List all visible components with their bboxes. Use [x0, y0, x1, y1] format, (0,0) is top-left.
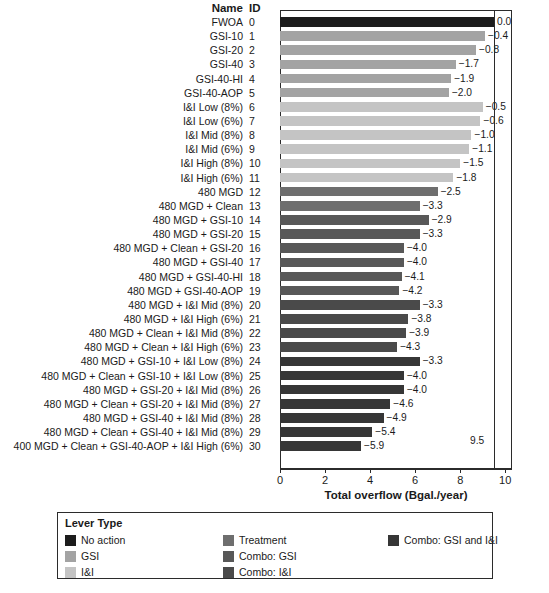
bar-cell: −4.9	[280, 411, 512, 425]
bar-cell: −1.5	[280, 156, 512, 170]
bar-cell: −4.0	[280, 255, 512, 269]
legend-swatch	[65, 567, 76, 578]
scenario-id: 2	[249, 43, 271, 57]
table-row: I&I High (8%)10−1.5	[0, 156, 549, 170]
table-row: GSI-202−0.8	[0, 43, 549, 57]
x-axis-label: Total overflow (Bgal./year)	[280, 489, 512, 501]
bar	[280, 31, 485, 41]
scenario-id: 28	[249, 411, 271, 425]
bar-value-label: −0.4	[488, 29, 508, 43]
bar-value-label: −4.0	[407, 241, 427, 255]
bar-cell: −2.0	[280, 86, 512, 100]
bar-value-label: −1.5	[463, 156, 483, 170]
bar	[280, 116, 480, 126]
x-tick	[370, 469, 371, 473]
table-row: GSI-40-HI4−1.9	[0, 72, 549, 86]
table-row: 480 MGD + GSI-40-HI18−4.1	[0, 270, 549, 284]
bar-value-label: −3.9	[409, 326, 429, 340]
x-tick-label: 4	[367, 474, 373, 486]
bar-value-label: −2.9	[432, 213, 452, 227]
table-row: GSI-101−0.4	[0, 29, 549, 43]
scenario-name: 480 MGD + Clean	[0, 199, 243, 213]
table-row: 480 MGD + Clean + GSI-2016−4.0	[0, 241, 549, 255]
table-row: 480 MGD + I&I High (6%)21−3.8	[0, 312, 549, 326]
bar-cell: −4.2	[280, 284, 512, 298]
table-row: 480 MGD + GSI-2015−3.3	[0, 227, 549, 241]
legend-label: Combo: GSI	[239, 549, 297, 563]
bar-cell: −4.0	[280, 369, 512, 383]
scenario-id: 25	[249, 369, 271, 383]
scenario-name: 480 MGD + Clean + GSI-20 + I&I Mid (8%)	[0, 397, 243, 411]
x-tick	[460, 469, 461, 473]
scenario-name: 480 MGD + GSI-40	[0, 255, 243, 269]
bar-value-label: −1.7	[459, 57, 479, 71]
scenario-name: GSI-40-HI	[0, 72, 243, 86]
scenario-id: 13	[249, 199, 271, 213]
table-row: I&I Mid (8%)8−1.0	[0, 128, 549, 142]
scenario-name: 480 MGD + GSI-20	[0, 227, 243, 241]
table-row: I&I Low (6%)7−0.6	[0, 114, 549, 128]
table-row: 400 MGD + Clean + GSI-40-AOP + I&I High …	[0, 439, 549, 453]
x-tick-label: 6	[412, 474, 418, 486]
bar-value-label: −5.4	[375, 425, 395, 439]
scenario-name: I&I High (8%)	[0, 156, 243, 170]
scenario-name: 480 MGD + GSI-40-HI	[0, 270, 243, 284]
bar-value-label: −1.8	[456, 171, 476, 185]
legend-swatch	[65, 535, 76, 546]
scenario-id: 21	[249, 312, 271, 326]
x-tick	[505, 469, 506, 473]
legend-title: Lever Type	[65, 517, 122, 529]
bar-cell: −0.5	[280, 100, 512, 114]
scenario-name: I&I Mid (6%)	[0, 142, 243, 156]
scenario-id: 26	[249, 383, 271, 397]
bar-value-label: −4.6	[393, 397, 413, 411]
bar	[280, 357, 420, 367]
bar-value-label: 0.0	[497, 15, 511, 29]
bar	[280, 144, 469, 154]
bar	[280, 272, 402, 282]
scenario-id: 5	[249, 86, 271, 100]
scenario-name: GSI-10	[0, 29, 243, 43]
bar-value-label: −4.2	[402, 284, 422, 298]
x-axis	[280, 469, 512, 470]
scenario-name: I&I Mid (8%)	[0, 128, 243, 142]
bar	[280, 413, 384, 423]
bar-value-label: −1.0	[474, 128, 494, 142]
bar-value-label: −3.3	[423, 199, 443, 213]
bar-value-label: −4.0	[407, 255, 427, 269]
bar	[280, 159, 460, 169]
scenario-name: I&I Low (8%)	[0, 100, 243, 114]
table-header: Name ID	[0, 2, 549, 16]
bar-value-label: −3.3	[423, 354, 443, 368]
scenario-name: I&I Low (6%)	[0, 114, 243, 128]
scenario-id: 30	[249, 439, 271, 453]
bar	[280, 17, 494, 27]
table-row: 480 MGD + Clean + GSI-20 + I&I Mid (8%)2…	[0, 397, 549, 411]
scenario-name: 480 MGD + GSI-10 + I&I Low (8%)	[0, 354, 243, 368]
scenario-name: 480 MGD + GSI-20 + I&I Mid (8%)	[0, 383, 243, 397]
scenario-id: 22	[249, 326, 271, 340]
bar-cell: −1.8	[280, 171, 512, 185]
table-row: GSI-40-AOP5−2.0	[0, 86, 549, 100]
bar	[280, 243, 404, 253]
bar-cell: −4.0	[280, 383, 512, 397]
scenario-id: 27	[249, 397, 271, 411]
bar-value-label: −1.9	[454, 72, 474, 86]
bar	[280, 286, 399, 296]
bar-cell: −1.0	[280, 128, 512, 142]
bar-cell: −4.6	[280, 397, 512, 411]
bar-value-label: −0.5	[486, 100, 506, 114]
bar	[280, 88, 449, 98]
x-tick-label: 10	[499, 474, 511, 486]
bar-cell: −3.3	[280, 199, 512, 213]
bar	[280, 102, 483, 112]
bar-cell: −1.7	[280, 57, 512, 71]
legend-swatch	[65, 551, 76, 562]
table-row: I&I High (6%)11−1.8	[0, 171, 549, 185]
scenario-id: 17	[249, 255, 271, 269]
bar-cell: −2.5	[280, 185, 512, 199]
bar-cell: −0.6	[280, 114, 512, 128]
table-row: 480 MGD + GSI-4017−4.0	[0, 255, 549, 269]
bar-cell: −3.9	[280, 326, 512, 340]
bar	[280, 173, 453, 183]
